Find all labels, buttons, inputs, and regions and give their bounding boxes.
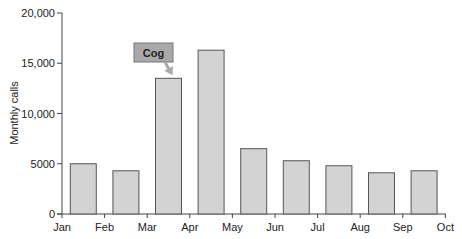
- bar-jul: [326, 166, 352, 214]
- x-tick-label: Mar: [138, 221, 157, 233]
- x-tick-label: Sep: [393, 221, 413, 233]
- x-tick-label: Aug: [350, 221, 370, 233]
- y-tick-label: 10,000: [21, 108, 55, 120]
- x-tick-label: Jan: [53, 221, 71, 233]
- bar-mar: [156, 78, 182, 214]
- bar-jun: [283, 161, 309, 214]
- bar-jan: [70, 164, 96, 214]
- bar-sep: [411, 171, 437, 214]
- y-tick-label: 15,000: [21, 57, 55, 69]
- x-axis: JanFebMarAprMayJunJulAugSepOct: [53, 214, 454, 233]
- x-tick-label: Jun: [266, 221, 284, 233]
- bar-apr: [198, 50, 224, 214]
- annotation-label: Cog: [143, 47, 164, 59]
- y-axis-title: Monthly calls: [8, 81, 20, 145]
- annotations: Cog: [134, 43, 173, 75]
- y-axis: 0500010,00015,00020,000: [21, 7, 62, 220]
- x-tick-label: Jul: [311, 221, 325, 233]
- y-tick-label: 20,000: [21, 7, 55, 19]
- x-tick-label: Apr: [181, 221, 198, 233]
- y-tick-label: 0: [49, 208, 55, 220]
- bar-may: [241, 149, 267, 214]
- bars: [70, 50, 437, 214]
- bar-feb: [113, 171, 139, 214]
- bar-chart: 0500010,00015,00020,000 JanFebMarAprMayJ…: [0, 0, 462, 239]
- x-tick-label: Oct: [437, 221, 454, 233]
- y-tick-label: 5000: [31, 158, 55, 170]
- x-tick-label: Feb: [95, 221, 114, 233]
- x-tick-label: May: [222, 221, 243, 233]
- bar-aug: [369, 173, 395, 214]
